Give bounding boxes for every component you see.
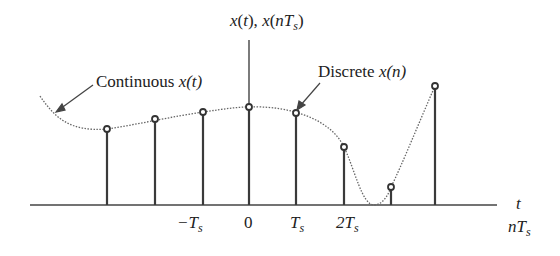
discrete-arrow: [297, 83, 320, 110]
tick-ts: Ts: [290, 214, 304, 231]
tick-minus-ts: −Ts: [177, 214, 203, 231]
x-axis-label-t: t: [516, 195, 521, 212]
tick-2ts: 2Ts: [336, 214, 359, 231]
sampling-diagram: [0, 0, 560, 256]
tick-zero: 0: [244, 214, 253, 231]
sample-stems: [107, 89, 435, 205]
discrete-label: Discrete x(n): [318, 63, 406, 80]
continuous-arrow: [56, 85, 93, 112]
y-axis-label: x(t), x(nTs): [230, 12, 304, 29]
x-axis-label-nts: nTs: [508, 218, 531, 235]
continuous-label: Continuous x(t): [96, 73, 202, 90]
continuous-signal-curve: [40, 86, 435, 205]
